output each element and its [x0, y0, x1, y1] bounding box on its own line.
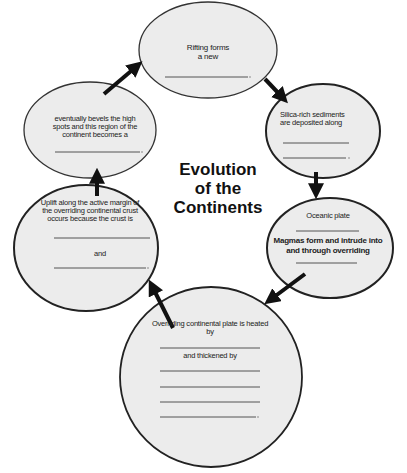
node-text-line: a new	[158, 53, 258, 62]
node-bevels-text: eventually bevels the high spots and thi…	[40, 115, 150, 139]
node-uplift-text: Uplift along the active margin of the ov…	[30, 199, 150, 223]
node-text-line: and through overriding	[266, 246, 390, 256]
title-line: of the	[148, 179, 288, 198]
node-text-line: by	[145, 328, 275, 336]
node-text-line: and thickened by	[170, 352, 250, 360]
diagram-title: Evolution of the Continents	[148, 160, 288, 217]
node-heated-ellipse	[120, 287, 302, 467]
arrow-rifting-to-silica	[265, 79, 283, 98]
node-silica-text: Silica-rich sediments are deposited alon…	[280, 111, 360, 127]
node-text-line: continent becomes a	[40, 131, 150, 139]
node-uplift-and: and	[80, 250, 120, 258]
node-heated-text: Overriding continental plate is heated b…	[145, 320, 275, 336]
node-text-line: Oceanic plate	[290, 212, 366, 220]
node-text-line: are deposited along	[280, 119, 360, 127]
node-oceanic-title: Oceanic plate	[290, 212, 366, 220]
node-text-line: Magmas form and intrude into	[266, 236, 390, 246]
node-rifting-text: Rifting forms a new	[158, 44, 258, 61]
node-text-line: occurs because the crust is	[30, 215, 150, 223]
node-heated-text2: and thickened by	[170, 352, 250, 360]
title-line: Continents	[148, 198, 288, 217]
title-line: Evolution	[148, 160, 288, 179]
node-text-line: and	[80, 250, 120, 258]
node-oceanic-text: Magmas form and intrude into and through…	[266, 236, 390, 255]
